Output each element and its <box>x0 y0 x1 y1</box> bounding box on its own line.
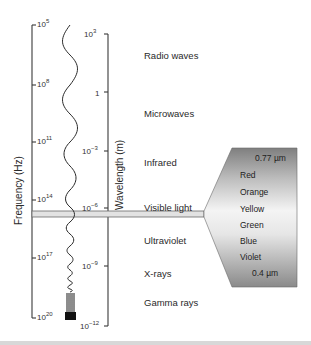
visible-color-green: Green <box>240 220 264 230</box>
freq-tick-label: 105 <box>37 18 49 29</box>
wavelength-tick-label: 10−12 <box>80 320 99 331</box>
frequency-axis <box>32 25 36 318</box>
visible-color-blue: Blue <box>240 236 257 246</box>
freq-tick-label: 1011 <box>37 135 52 146</box>
region-label-visible: Visible light <box>144 202 192 213</box>
freq-tick-label: 1017 <box>37 251 53 262</box>
bottom-divider <box>0 341 311 345</box>
region-label-infrared: Infrared <box>144 157 177 168</box>
wavelength-tick-label: 103 <box>84 28 96 39</box>
frequency-axis-title: Frequency (Hz) <box>13 156 24 225</box>
visible-top-wavelength: 0.77 µm <box>255 153 286 163</box>
region-label-radio: Radio waves <box>144 50 198 61</box>
wavelength-tick-label: 10−6 <box>82 202 98 213</box>
visible-color-violet: Violet <box>240 252 261 262</box>
visible-color-orange: Orange <box>240 187 268 197</box>
visible-light-band <box>32 148 297 287</box>
wavelength-tick-label: 10−9 <box>82 260 98 271</box>
wavelength-tick-label: 1 <box>95 87 99 98</box>
wave-end-block <box>65 312 76 320</box>
region-label-microwaves: Microwaves <box>144 108 194 119</box>
freq-tick-label: 1020 <box>37 311 53 322</box>
visible-color-yellow: Yellow <box>240 204 264 214</box>
wavelength-tick-label: 10−3 <box>82 145 98 156</box>
region-label-ultraviolet: Ultraviolet <box>144 235 186 246</box>
region-label-gamma: Gamma rays <box>144 297 198 308</box>
freq-tick-label: 108 <box>37 78 49 89</box>
region-label-xrays: X-rays <box>144 268 171 279</box>
visible-color-red: Red <box>240 170 256 180</box>
wavelength-axis-title: Wavelength (m) <box>114 140 125 210</box>
wavelength-axis <box>104 34 108 326</box>
freq-tick-label: 1014 <box>37 193 53 204</box>
wave-curve <box>63 25 78 292</box>
visible-bottom-wavelength: 0.4 µm <box>252 268 278 278</box>
wave-dense-coil <box>66 294 75 314</box>
